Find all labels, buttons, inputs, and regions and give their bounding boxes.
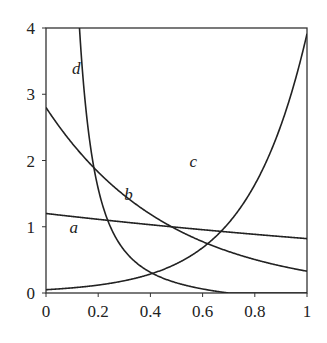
plot-frame (46, 28, 307, 293)
x-tick-label: 0 (42, 302, 51, 321)
y-tick-label: 1 (27, 218, 36, 237)
x-tick-label: 1 (303, 302, 312, 321)
axis-ticks: 00.20.40.60.8101234 (27, 19, 312, 321)
curve-label-b: b (124, 185, 133, 204)
x-tick-label: 0.2 (88, 302, 109, 321)
x-tick-label: 0.8 (244, 302, 265, 321)
x-tick-label: 0.6 (192, 302, 213, 321)
curve-labels: abcd (69, 59, 197, 237)
curve-d (47, 0, 307, 293)
curve-label-a: a (69, 218, 78, 237)
curve-label-c: c (190, 152, 198, 171)
line-chart: 00.20.40.60.8101234 abcd (0, 0, 327, 343)
plot-border (46, 28, 307, 293)
curves (46, 0, 307, 293)
y-tick-label: 2 (27, 152, 36, 171)
y-tick-label: 0 (27, 284, 36, 303)
y-tick-label: 4 (27, 19, 36, 38)
curve-b (46, 108, 307, 272)
curve-label-d: d (72, 59, 81, 78)
x-tick-label: 0.4 (140, 302, 162, 321)
curve-c (46, 34, 307, 290)
curve-a (46, 214, 307, 239)
y-tick-label: 3 (27, 85, 36, 104)
